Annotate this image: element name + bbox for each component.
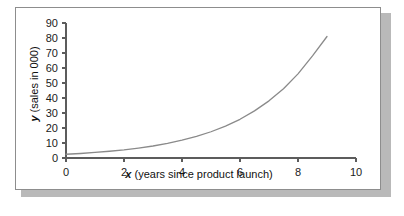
x-axis-description: (years since product launch) [131,168,272,180]
y-axis-title: y (sales in 000) [28,14,40,154]
axes-layer [62,23,356,162]
plot-area: 0102030405060708090 0246810 x (years sin… [16,8,382,191]
x-axis-title: x (years since product launch) [16,168,382,180]
chart-svg [16,8,382,191]
series-layer [66,37,327,155]
series-line-0 [66,37,327,155]
y-axis-tick-label: 0 [32,153,58,164]
figure-root: 0102030405060708090 0246810 x (years sin… [0,0,404,216]
y-axis-description: (sales in 000) [28,46,40,115]
y-axis-variable: y [28,115,40,121]
figure-frame: 0102030405060708090 0246810 x (years sin… [15,7,381,190]
